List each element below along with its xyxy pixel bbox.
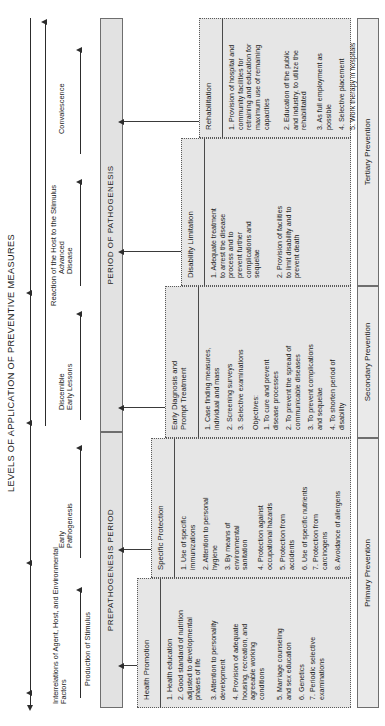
measure-head-rule-5 [222, 18, 223, 138]
pointer-stem-3 [123, 407, 165, 408]
stage-label-3-text: Early Pathogenesis [57, 503, 74, 548]
stage-rule-5 [80, 50, 81, 154]
measure-subitem-text: To prevent complications and sequelae [307, 344, 324, 430]
measure-item-text: Provision of facilities to limit disabil… [276, 206, 301, 278]
measure-item-text: Marriage counseling and sex education [276, 628, 293, 700]
measure-item: 3. Selective examinations [237, 350, 246, 430]
measure-head-rule-3 [198, 286, 199, 438]
stage-arrow-1 [76, 587, 82, 593]
stage-label-2: Production of Stimulus [84, 612, 92, 686]
measure-item-text: Adequate treatment to arrest the disease… [210, 208, 261, 278]
measure-subitem: 3. To prevent complications and sequelae [307, 344, 324, 430]
measure-item: 2. Education of the public and industry,… [283, 50, 309, 130]
measure-item: 2. Attention to personal hygiene [202, 497, 219, 570]
measure-item: 6. Use of specific nutrients [301, 487, 310, 570]
measure-item-text: Education of the public and industry, to… [283, 50, 308, 130]
axis-spine [30, 18, 31, 708]
measure-item: 4. Protection against occupational hazar… [257, 503, 274, 570]
stage-tick-2 [26, 560, 32, 566]
measure-item-text: Use of specific immunizations [180, 516, 197, 570]
pointer-stem-2 [123, 549, 151, 550]
stage-label-6: Convalescence [58, 83, 66, 134]
measure-subitem: 1. To cure and prevent disease processes [263, 360, 280, 430]
measure-item-text: Avoidance of allergens [334, 491, 342, 563]
stage-rule-1 [80, 590, 81, 698]
stage-label-3: Early Pathogenesis [58, 503, 75, 548]
measure-item: 2. Screening surveys [226, 364, 235, 430]
stage-rule-2 [80, 448, 81, 558]
pointer-arrow-5 [118, 119, 124, 125]
measure-item-text: Periodic selective examinations [309, 637, 326, 700]
measure-item-text: Case finding measures, individual and ma… [204, 348, 221, 430]
measure-item: 1. Case finding measures, individual and… [204, 348, 221, 430]
measure-item: 5. Marriage counseling and sex education [276, 628, 293, 700]
measure-item-text: Protection against occupational hazards [257, 503, 274, 570]
measure-item: 1. Adequate treatment to arrest the dise… [210, 208, 262, 278]
period-band-pathogenesis-label: PERIOD OF PATHOGENESIS [106, 18, 115, 432]
measure-subitem: 4. To shorten period of disability [329, 360, 346, 430]
pointer-stem-4 [123, 251, 181, 252]
measure-item-text: Selective examinations [237, 350, 245, 423]
pointer-stem-1 [123, 665, 137, 666]
stage-label-1: Interrelations of Agent, Host, and Envir… [52, 547, 69, 704]
stage-tick-4 [26, 290, 32, 296]
measure-item: 6. Genetics [298, 664, 307, 700]
pointer-stem-5 [123, 121, 199, 122]
stage-arrow-2 [76, 445, 82, 451]
measure-item: 3. Attention to personality development [210, 620, 227, 700]
stage-tick-3 [26, 420, 32, 426]
measure-item: 7. Protection from carcinogens [312, 514, 329, 570]
measure-item-text: Good standard of nutrition adjusted to d… [177, 610, 202, 700]
measure-item: 2. Good standard of nutrition adjusted t… [177, 610, 203, 700]
stage-label-6-text: Convalescence [57, 83, 66, 134]
pointer-arrow-4 [118, 249, 124, 255]
measure-subhead-objectives: Objectives: [252, 395, 261, 430]
measure-item-text: Protection from accidents [279, 514, 296, 570]
pointer-arrow-3 [118, 405, 124, 411]
measure-item-text: As full employment as possible [316, 53, 333, 130]
measure-item: 1. Provision of hospital and community f… [228, 44, 271, 130]
measure-head-rule-1 [160, 578, 161, 708]
period-band-prepathogenesis-label: PREPATHOGENESIS PERIOD [106, 432, 115, 708]
stage-arrow-5 [76, 47, 82, 53]
measure-item: 1. Use of specific immunizations [180, 516, 197, 570]
pointer-arrow-2 [118, 547, 124, 553]
stage-arrow-3 [76, 311, 82, 317]
measure-item-text: Work therapy in hospitals [349, 43, 357, 123]
measure-item: 4. Selective placement [338, 59, 347, 130]
measure-subitem-text: To shorten period of disability [329, 360, 346, 430]
host-reaction-arrow [41, 19, 47, 25]
measure-item: 3. As full employment as possible [316, 53, 333, 130]
pointer-arrow-1 [118, 663, 124, 669]
measure-head-early-diagnosis: Early Diagnosis and Prompt Treatment [171, 361, 189, 430]
measure-item-text: By means of environmental sanitation [224, 523, 249, 570]
measure-item: 7. Periodic selective examinations [309, 637, 326, 700]
stage-arrow-4 [76, 179, 82, 185]
measure-item: 3. By means of environmental sanitation [224, 523, 250, 570]
measure-item: 1. Health education [166, 639, 175, 700]
measure-item-text: Provision of adequate housing, recreatio… [232, 623, 266, 700]
prevention-label-primary: Primary Prevention [363, 438, 372, 708]
prevention-label-secondary: Secondary Prevention [363, 286, 372, 438]
measure-item: 4. Provision of adequate housing, recrea… [232, 623, 267, 700]
stage-rule-3 [80, 314, 81, 420]
stage-label-4: Discernible Early Lessons [58, 364, 75, 410]
measure-item-text: Provision of hospital and community faci… [228, 44, 271, 130]
host-reaction-bracket [45, 22, 46, 426]
measure-head-health-promotion: Health Promotion [143, 640, 152, 700]
measure-item-text: Protection from carcinogens [312, 514, 329, 570]
stage-label-5: Advanced Disease [58, 241, 75, 274]
stage-label-2-text: Production of Stimulus [83, 612, 92, 686]
measure-item-text: Screening surveys [226, 364, 234, 422]
measure-subitem-text: To prevent the spread of communicable di… [285, 346, 302, 430]
measure-head-rule-4 [204, 138, 205, 286]
page-title: LEVELS OF APPLICATION OF PREVENTIVE MEAS… [6, 0, 16, 726]
measure-item-text: Health education [166, 639, 174, 692]
measure-item: 8. Avoidance of allergens [334, 491, 343, 570]
stage-rule-4 [80, 182, 81, 286]
stage-tick-1 [26, 690, 32, 696]
measure-item: 5. Protection from accidents [279, 514, 296, 570]
measure-item: 2. Provision of facilities to limit disa… [276, 206, 302, 278]
prevention-label-tertiary: Tertiary Prevention [363, 18, 372, 286]
measure-subitem-text: To cure and prevent disease processes [263, 360, 280, 430]
